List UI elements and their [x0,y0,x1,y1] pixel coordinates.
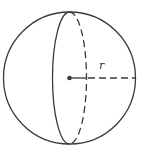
center-point [67,76,72,81]
sphere-diagram: r [0,0,142,154]
great-circle-front [53,12,70,144]
sphere-drawing [0,0,142,154]
radius-label: r [99,59,104,72]
